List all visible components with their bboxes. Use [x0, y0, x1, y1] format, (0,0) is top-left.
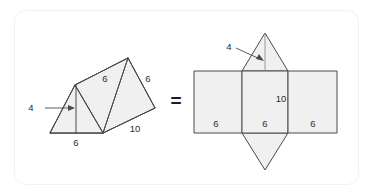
net-label-rect-right-width: 6: [310, 118, 315, 129]
net-triangle-bottom: [242, 133, 288, 170]
triangular-prism-net: 4 10 6 6 6: [194, 33, 337, 170]
net-label-rect-left-width: 6: [213, 118, 218, 129]
net-label-triangle-height: 4: [226, 41, 231, 52]
net-label-rect-height: 10: [276, 93, 287, 104]
geometry-figure: 4 6 6 6 10 =: [0, 0, 373, 195]
diagram-canvas: 4 6 6 6 10 =: [0, 0, 373, 195]
prism-label-slant-right: 6: [145, 73, 150, 84]
prism-label-base: 6: [73, 137, 78, 148]
prism-label-slant-left: 6: [102, 73, 107, 84]
prism-label-length: 10: [130, 123, 141, 134]
equals-symbol: =: [170, 90, 181, 111]
prism-label-height: 4: [28, 102, 33, 113]
triangular-prism-3d: 4 6 6 6 10: [28, 58, 155, 148]
net-label-rect-middle-width: 6: [262, 118, 267, 129]
